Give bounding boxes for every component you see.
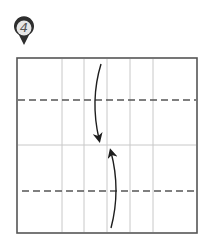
step-number: 4	[17, 19, 31, 37]
origami-step-diagram	[0, 0, 210, 248]
